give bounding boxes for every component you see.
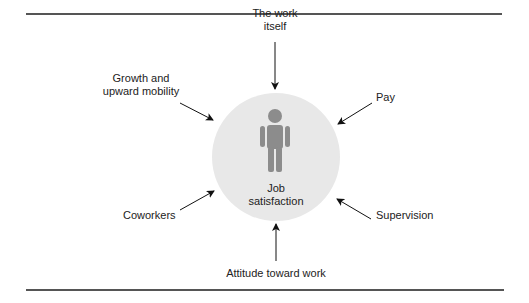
factor-growth: Growth and upward mobility [96, 72, 186, 98]
factor-supervision: Supervision [376, 209, 433, 222]
factor-attitude: Attitude toward work [216, 267, 336, 280]
factor-growth-line2: upward mobility [96, 85, 186, 98]
factor-pay: Pay [376, 91, 395, 104]
arrow-supervision [337, 199, 371, 219]
factor-pay-line1: Pay [376, 91, 395, 104]
factor-coworkers-line1: Coworkers [123, 209, 176, 222]
center-label-line1: Job [236, 182, 316, 195]
arrow-growth [180, 103, 213, 120]
center-label-line2: satisfaction [236, 195, 316, 208]
factor-growth-line1: Growth and [96, 72, 186, 85]
factor-attitude-line1: Attitude toward work [216, 267, 336, 280]
factor-work-itself-line2: itself [235, 20, 315, 33]
factor-coworkers: Coworkers [123, 209, 176, 222]
arrow-coworkers [180, 191, 214, 210]
center-label: Job satisfaction [236, 182, 316, 208]
factor-work-itself-line1: The work [235, 7, 315, 20]
arrow-pay [338, 103, 372, 124]
factor-supervision-line1: Supervision [376, 209, 433, 222]
factor-work-itself: The work itself [235, 7, 315, 33]
diagram-canvas [0, 0, 529, 303]
